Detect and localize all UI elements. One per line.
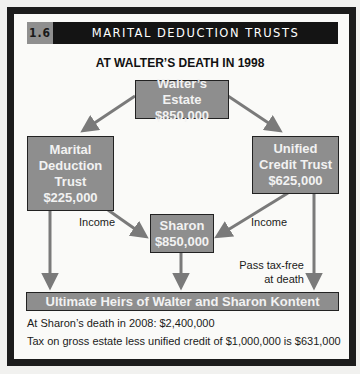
unified-label-1: Unified [253, 141, 338, 157]
arrow-unified-to-sharon [218, 193, 288, 236]
arrow-walter-to-marital [84, 96, 135, 130]
income-label-right: Income [251, 216, 287, 228]
marital-label-3: Trust [28, 174, 113, 190]
pass-tax-free-label: Pass tax-free at death [238, 258, 304, 286]
marital-deduction-trust-box: Marital Deduction Trust $225,000 [27, 136, 114, 211]
walter-estate-label: Walter’s Estate [136, 76, 228, 108]
unified-label-2: Credit Trust [253, 157, 338, 173]
arrow-walter-to-unified [228, 96, 279, 130]
walter-estate-box: Walter’s Estate $850,000 [135, 80, 229, 119]
marital-label-1: Marital [28, 142, 113, 158]
income-label-left: Income [79, 216, 115, 228]
ultimate-heirs-label: Ultimate Heirs of Walter and Sharon Kont… [27, 294, 338, 310]
note-sharon-death: At Sharon’s death in 2008: $2,400,000 [27, 317, 215, 329]
sharon-box: Sharon $850,000 [150, 214, 214, 253]
ultimate-heirs-bar: Ultimate Heirs of Walter and Sharon Kont… [26, 292, 339, 311]
note-tax: Tax on gross estate less unified credit … [27, 335, 341, 347]
marital-label-2: Deduction [28, 158, 113, 174]
walter-estate-amount: $850,000 [136, 108, 228, 124]
pass-tax-free-line1: Pass tax-free [238, 258, 304, 272]
unified-amount: $625,000 [253, 173, 338, 189]
marital-amount: $225,000 [28, 190, 113, 206]
pass-tax-free-line2: at death [238, 272, 304, 286]
unified-credit-trust-box: Unified Credit Trust $625,000 [252, 136, 339, 194]
sharon-amount: $850,000 [151, 234, 213, 250]
sharon-label: Sharon [151, 218, 213, 234]
